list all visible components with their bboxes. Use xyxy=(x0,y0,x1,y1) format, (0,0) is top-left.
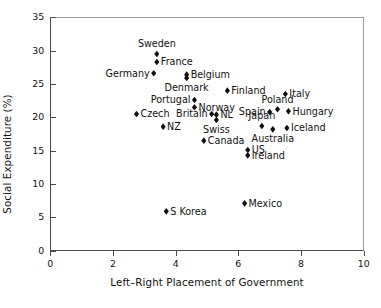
data-point-label: Britain xyxy=(176,109,208,119)
x-tick-mark xyxy=(364,251,365,256)
x-tick-mark xyxy=(176,251,177,256)
x-tick-label: 8 xyxy=(286,259,316,268)
data-point-label: Denmark xyxy=(165,83,209,93)
data-point-label: Germany xyxy=(106,69,150,79)
y-axis-title-text: Social Expenditure (%) xyxy=(1,94,13,213)
data-point-label: S Korea xyxy=(170,207,206,217)
y-tick-label: 20 xyxy=(10,112,44,121)
data-point-label: Mexico xyxy=(249,199,283,209)
y-axis-title: Social Expenditure (%) xyxy=(0,0,15,308)
y-tick-label: 30 xyxy=(10,46,44,55)
data-point-label: Finland xyxy=(231,86,265,96)
y-tick-label: 0 xyxy=(10,246,44,255)
x-axis-title: Left–Right Placement of Government xyxy=(50,276,364,288)
y-tick-label: 10 xyxy=(10,179,44,188)
data-point-label: Czech xyxy=(140,109,169,119)
data-point-label: Belgium xyxy=(191,70,230,80)
y-tick-mark xyxy=(50,151,56,152)
x-tick-label: 6 xyxy=(223,259,253,268)
y-tick-mark xyxy=(50,51,56,52)
y-tick-label: 35 xyxy=(10,12,44,21)
data-point-label: Sweden xyxy=(138,39,176,49)
data-point-label: NZ xyxy=(167,122,181,132)
data-point-label: France xyxy=(161,57,193,67)
y-tick-label: 15 xyxy=(10,146,44,155)
x-tick-label: 2 xyxy=(98,259,128,268)
x-tick-mark xyxy=(301,251,302,256)
y-tick-label: 5 xyxy=(10,212,44,221)
data-point-label: Ireland xyxy=(252,151,285,161)
scatter-chart: 05101520253035 0246810 SwedenFranceGerma… xyxy=(0,0,381,308)
data-point-label: Japan xyxy=(248,111,275,121)
y-tick-label: 25 xyxy=(10,79,44,88)
y-tick-mark xyxy=(50,17,56,18)
data-point-label: Canada xyxy=(208,136,245,146)
data-point-label: Poland xyxy=(261,95,293,105)
y-tick-mark xyxy=(50,84,56,85)
data-point-label: Hungary xyxy=(292,107,333,117)
x-tick-mark xyxy=(238,251,239,256)
y-tick-mark xyxy=(50,217,56,218)
data-point-label: Iceland xyxy=(291,123,326,133)
data-point-label: NL xyxy=(220,110,233,120)
y-tick-mark xyxy=(50,117,56,118)
data-point-label: Portugal xyxy=(151,95,191,105)
data-point-label: Australia xyxy=(252,134,294,144)
x-tick-mark xyxy=(50,251,51,256)
x-tick-label: 0 xyxy=(35,259,65,268)
data-point-label: Swiss xyxy=(203,125,230,135)
x-tick-label: 10 xyxy=(349,259,379,268)
x-tick-mark xyxy=(113,251,114,256)
x-tick-label: 4 xyxy=(161,259,191,268)
y-tick-mark xyxy=(50,184,56,185)
